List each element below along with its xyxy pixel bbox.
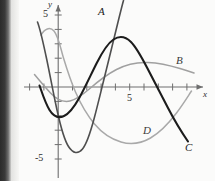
y-axis [55, 5, 62, 178]
x-axis [24, 84, 203, 91]
x-axis-label: x [203, 89, 207, 99]
curve-label-a: A [98, 5, 105, 17]
curve-d-path [41, 29, 192, 144]
curve-label-c: C [185, 141, 192, 153]
curve-label-d: D [143, 124, 151, 136]
plot-canvas [0, 0, 215, 181]
x-tick-label-5: 5 [127, 92, 132, 103]
y-axis-label: y [48, 0, 52, 9]
math-graph-figure: x y 5 -5 5 A B C D [0, 0, 215, 181]
y-tick-label-5: 5 [43, 8, 48, 19]
curve-label-b: B [176, 54, 183, 66]
curve-a-path [38, 1, 124, 153]
y-tick-label-neg5: -5 [35, 152, 43, 163]
